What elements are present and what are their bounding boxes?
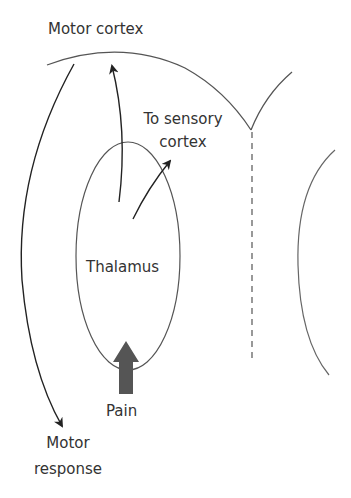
to-sensory-cortex-label-line2: cortex <box>133 133 233 151</box>
to-sensory-cortex-label: To sensory cortex <box>133 110 233 151</box>
contralateral-structure-outline <box>298 150 335 375</box>
motor-response-label-line1: Motor <box>22 434 114 452</box>
pain-label: Pain <box>106 402 137 420</box>
motor-response-label: Motor response <box>22 434 114 478</box>
thalamus-label: Thalamus <box>86 258 159 276</box>
thalamus-outline <box>76 142 180 370</box>
pain-pathway-diagram: Motor cortex To sensory cortex Thalamus … <box>0 0 351 498</box>
motor-response-arrow <box>21 64 74 426</box>
to-sensory-cortex-label-line1: To sensory <box>133 110 233 128</box>
motor-response-label-line2: response <box>22 460 114 478</box>
thalamus-to-motor-cortex-arrow <box>112 66 122 202</box>
right-hemisphere-outline <box>251 72 292 130</box>
motor-cortex-label: Motor cortex <box>48 20 143 38</box>
diagram-graphics <box>0 0 351 498</box>
to-sensory-cortex-arrow <box>133 161 170 219</box>
